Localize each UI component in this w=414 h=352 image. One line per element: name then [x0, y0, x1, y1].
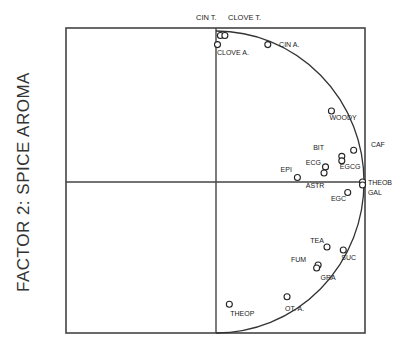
- data-point: [340, 247, 346, 253]
- data-point: [284, 294, 290, 300]
- data-point: [214, 42, 220, 48]
- point-label: SUC: [341, 254, 356, 261]
- point-label: THEOP: [230, 310, 254, 317]
- data-point: [351, 147, 357, 153]
- data-point: [226, 301, 232, 307]
- data-point: [294, 174, 300, 180]
- point-label: GRA: [321, 274, 337, 281]
- point-label: BIT: [313, 144, 325, 151]
- factor-plot: CLOVE A.CIN A.WOODYBITCAFEGCGECGEPIASTRT…: [0, 0, 414, 352]
- top-label-clove-t: CLOVE T.: [228, 13, 261, 22]
- point-label: TEA: [310, 237, 324, 244]
- data-point: [323, 164, 329, 170]
- data-point: [222, 33, 228, 39]
- point-label: EGCG: [340, 163, 361, 170]
- data-point: [324, 244, 330, 250]
- point-labels: CLOVE A.CIN A.WOODYBITCAFEGCGECGEPIASTRT…: [217, 41, 392, 317]
- data-point: [265, 42, 271, 48]
- data-point: [314, 265, 320, 271]
- data-point: [321, 170, 327, 176]
- point-label: WOODY: [329, 114, 357, 121]
- point-label: ECG: [306, 159, 321, 166]
- point-label: EPI: [281, 166, 292, 173]
- point-label: CIN A.: [279, 41, 299, 48]
- point-label: GAL: [368, 189, 382, 196]
- point-label: THEOB: [368, 179, 392, 186]
- top-label-cin-t: CIN T.: [196, 13, 217, 22]
- point-label: OT. A.: [285, 305, 304, 312]
- point-label: CAF: [371, 141, 385, 148]
- point-label: EGC: [331, 195, 346, 202]
- point-label: CLOVE A.: [217, 49, 249, 56]
- point-label: ASTR: [306, 182, 325, 189]
- data-point: [360, 182, 366, 188]
- point-label: FUM: [291, 256, 306, 263]
